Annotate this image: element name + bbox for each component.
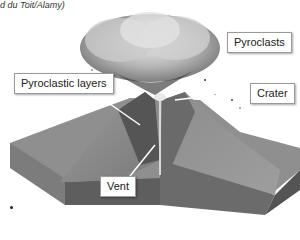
label-vent: Vent: [100, 176, 136, 197]
label-pyroclastic-layers: Pyroclastic layers: [14, 73, 114, 94]
bullet-mark: [10, 206, 13, 209]
label-pyroclasts: Pyroclasts: [227, 32, 292, 53]
label-crater: Crater: [250, 83, 295, 104]
